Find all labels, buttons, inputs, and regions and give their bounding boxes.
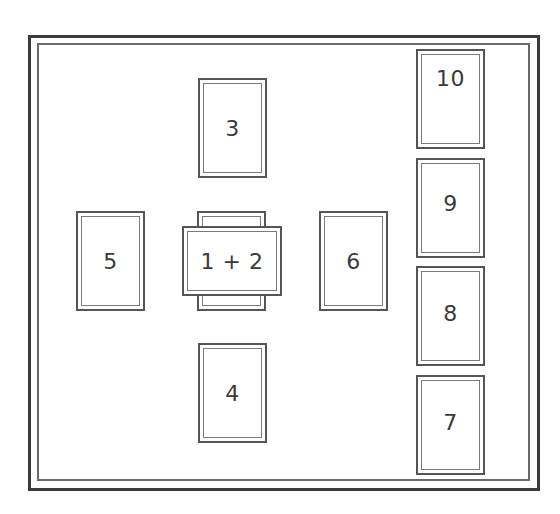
card-position-8: 8 xyxy=(416,266,485,366)
card-position-9: 9 xyxy=(416,158,485,258)
card-label: 8 xyxy=(418,301,483,326)
card-label: 10 xyxy=(418,65,483,90)
card-position-4: 4 xyxy=(198,343,267,443)
card-label: 4 xyxy=(200,381,265,406)
card-position-7: 7 xyxy=(416,375,485,475)
card-position-2: 1 + 2 xyxy=(182,226,282,296)
card-position-3: 3 xyxy=(198,78,267,178)
card-position-6: 6 xyxy=(319,211,388,311)
card-position-10: 10 xyxy=(416,49,485,149)
card-label: 7 xyxy=(418,410,483,435)
card-label: 9 xyxy=(418,191,483,216)
card-label: 1 + 2 xyxy=(184,249,280,274)
card-label: 6 xyxy=(321,249,386,274)
card-label: 3 xyxy=(200,116,265,141)
card-position-5: 5 xyxy=(76,211,145,311)
card-label: 5 xyxy=(78,249,143,274)
